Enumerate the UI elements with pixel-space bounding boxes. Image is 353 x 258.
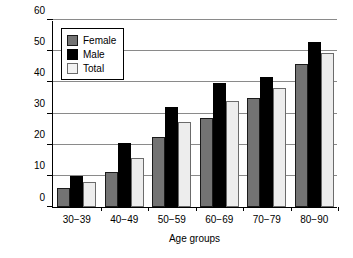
- legend-item-male[interactable]: Male: [67, 47, 116, 61]
- bar-female-1: [105, 172, 118, 207]
- x-tick: [148, 207, 149, 211]
- y-tick-label: 40: [34, 66, 45, 77]
- x-tick-label: 70−79: [253, 214, 281, 225]
- bar-male-3: [213, 83, 226, 207]
- bar-group: 70−79: [243, 21, 291, 207]
- x-tick: [196, 207, 197, 211]
- y-tick-label: 30: [34, 98, 45, 109]
- y-tick-label: 50: [34, 35, 45, 46]
- bar-female-2: [152, 137, 165, 207]
- y-tick-label: 10: [34, 160, 45, 171]
- legend-label: Female: [83, 35, 116, 46]
- bar-male-1: [118, 143, 131, 207]
- y-tick-60: [47, 19, 53, 20]
- bar-female-3: [200, 118, 213, 207]
- x-tick: [291, 207, 292, 211]
- legend-label: Male: [83, 49, 105, 60]
- legend-swatch-total-icon: [67, 63, 78, 74]
- bar-female-0: [57, 188, 70, 207]
- y-tick-label: 0: [39, 191, 45, 202]
- bar-group: 80−90: [291, 21, 339, 207]
- x-axis-title: Age groups: [52, 233, 337, 244]
- legend-item-total[interactable]: Total: [67, 61, 116, 75]
- bar-total-2: [178, 122, 191, 207]
- legend-item-female[interactable]: Female: [67, 33, 116, 47]
- x-tick-label: 50−59: [158, 214, 186, 225]
- x-tick: [243, 207, 244, 211]
- bar-group: 60−69: [196, 21, 244, 207]
- x-tick-label: 80−90: [300, 214, 328, 225]
- bar-male-0: [70, 176, 83, 207]
- y-tick-label: 60: [34, 4, 45, 15]
- bar-male-4: [260, 77, 273, 207]
- x-tick: [338, 207, 339, 211]
- bar-total-4: [273, 88, 286, 207]
- bar-chart: Mean percentage 0102030405060 30−3940−49…: [0, 0, 353, 258]
- bar-male-2: [165, 107, 178, 207]
- bar-group: 50−59: [148, 21, 196, 207]
- x-tick-label: 30−39: [63, 214, 91, 225]
- x-tick-label: 60−69: [205, 214, 233, 225]
- y-tick-label: 20: [34, 129, 45, 140]
- bar-male-5: [308, 42, 321, 207]
- legend-swatch-male-icon: [67, 49, 78, 60]
- bar-female-4: [247, 98, 260, 207]
- legend-swatch-female-icon: [67, 35, 78, 46]
- x-tick: [101, 207, 102, 211]
- bar-total-3: [226, 101, 239, 207]
- bar-total-5: [321, 53, 334, 207]
- gridline-60: [53, 19, 337, 20]
- bar-female-5: [295, 64, 308, 207]
- y-axis-title: Mean percentage: [0, 0, 20, 258]
- bar-total-1: [131, 158, 144, 207]
- bar-total-0: [83, 182, 96, 207]
- legend-label: Total: [83, 63, 104, 74]
- chart-legend: FemaleMaleTotal: [61, 28, 124, 80]
- x-tick-label: 40−49: [110, 214, 138, 225]
